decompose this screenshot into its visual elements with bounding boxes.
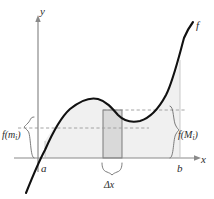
max-value-label-paren: ) [194, 129, 197, 140]
max-value-label-main: f(M [178, 129, 192, 140]
interval-start-label: a [41, 163, 47, 174]
y-axis-label: y [40, 6, 45, 17]
x-axis-arrowhead [194, 155, 201, 160]
delta-x-label: Δx [104, 180, 114, 190]
figure-container: y x f a b f(mi) f(Mi) Δx [0, 0, 214, 199]
min-value-label-main: f(m [2, 129, 15, 140]
min-value-label-paren: ) [17, 129, 20, 140]
min-brace-path [24, 117, 34, 158]
min-value-label: f(mi) [2, 130, 21, 142]
delta-x-brace [102, 163, 122, 175]
x-axis-label: x [201, 154, 206, 165]
max-value-label: f(Mi) [178, 130, 198, 142]
min-value-brace [24, 117, 34, 158]
interval-end-label: b [177, 163, 183, 174]
curve-label: f [196, 20, 199, 31]
delta-x-brace-path [102, 163, 122, 175]
